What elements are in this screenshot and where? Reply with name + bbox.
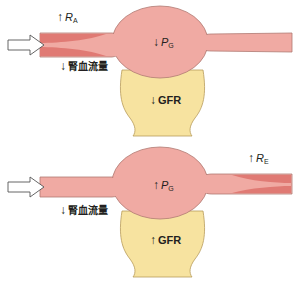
- panel-afferent-constriction: ↑RA ↓腎血流量 ↓PG ↓GFR: [0, 0, 295, 141]
- arrow-down-icon: ↓: [60, 59, 66, 73]
- arrow-up-icon: ↑: [153, 178, 159, 192]
- arrow-up-icon: ↑: [57, 10, 63, 24]
- efferent-resistance-label: ↑RE: [248, 152, 269, 168]
- renal-blood-flow-label: ↓腎血流量: [60, 204, 108, 217]
- glomerular-pressure-label: ↓PG: [153, 36, 174, 52]
- gfr-label: ↑GFR: [150, 234, 181, 246]
- arrow-up-icon: ↑: [248, 151, 254, 165]
- panel-efferent-constriction: ↑RE ↓腎血流量 ↑PG ↑GFR: [0, 141, 295, 282]
- afferent-arteriole: [40, 177, 122, 197]
- glomerular-pressure-label: ↑PG: [153, 179, 174, 195]
- blood-inflow-arrow-icon: [8, 35, 44, 55]
- blood-inflow-arrow-icon: [8, 177, 44, 197]
- arrow-up-icon: ↑: [150, 233, 156, 247]
- efferent-arteriole: [200, 33, 292, 52]
- renal-blood-flow-label: ↓腎血流量: [60, 60, 108, 73]
- arrow-down-icon: ↓: [60, 203, 66, 217]
- afferent-resistance-label: ↑RA: [57, 11, 78, 27]
- arrow-down-icon: ↓: [153, 35, 159, 49]
- arrow-down-icon: ↓: [150, 93, 156, 107]
- glomerulus-diagram-afferent: [0, 0, 295, 141]
- gfr-label: ↓GFR: [150, 94, 181, 106]
